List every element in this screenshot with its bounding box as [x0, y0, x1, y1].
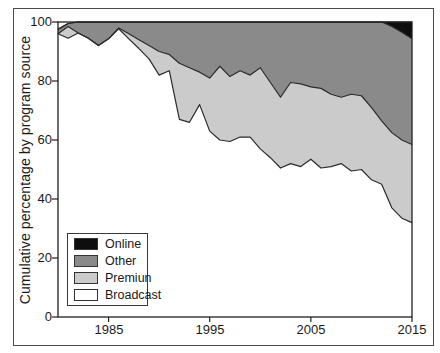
premiun-swatch — [74, 272, 98, 284]
legend-item-online: Online — [74, 238, 147, 251]
legend-box: Online Other Premiun Broadcast — [67, 233, 148, 306]
legend-item-broadcast: Broadcast — [74, 289, 147, 302]
y-tick-label-80: 80 — [22, 74, 52, 88]
y-tick-label-100: 100 — [22, 15, 52, 29]
y-tick-label-60: 60 — [22, 133, 52, 147]
plot-canvas — [0, 0, 440, 353]
online-swatch — [74, 238, 98, 250]
legend-label: Online — [105, 238, 141, 251]
legend-label: Premiun — [105, 272, 152, 285]
other-swatch — [74, 255, 98, 267]
legend-label: Other — [105, 255, 136, 268]
x-tick-label-2005: 2005 — [291, 322, 331, 337]
y-tick-label-20: 20 — [22, 251, 52, 265]
x-tick-label-2015: 2015 — [392, 322, 432, 337]
stacked-area-chart-figure: Cumulative percentage by program source … — [0, 0, 440, 353]
x-tick-label-1995: 1995 — [190, 322, 230, 337]
broadcast-swatch — [74, 289, 98, 301]
x-tick-label-1985: 1985 — [89, 322, 129, 337]
legend-item-other: Other — [74, 255, 147, 268]
legend-item-premiun: Premiun — [74, 272, 147, 285]
y-tick-label-40: 40 — [22, 192, 52, 206]
y-tick-label-0: 0 — [22, 310, 52, 324]
legend-label: Broadcast — [105, 289, 161, 302]
